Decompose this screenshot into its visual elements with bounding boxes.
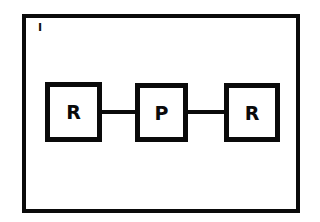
node-r-right: R	[224, 83, 280, 142]
node-label: R	[245, 102, 260, 124]
node-label: P	[155, 102, 169, 124]
node-label: R	[66, 101, 81, 123]
node-p-center: P	[135, 83, 188, 142]
panel-label: I	[38, 22, 42, 33]
edge-r-to-p	[102, 110, 135, 114]
node-r-left: R	[45, 82, 102, 142]
edge-p-to-r	[188, 110, 224, 114]
